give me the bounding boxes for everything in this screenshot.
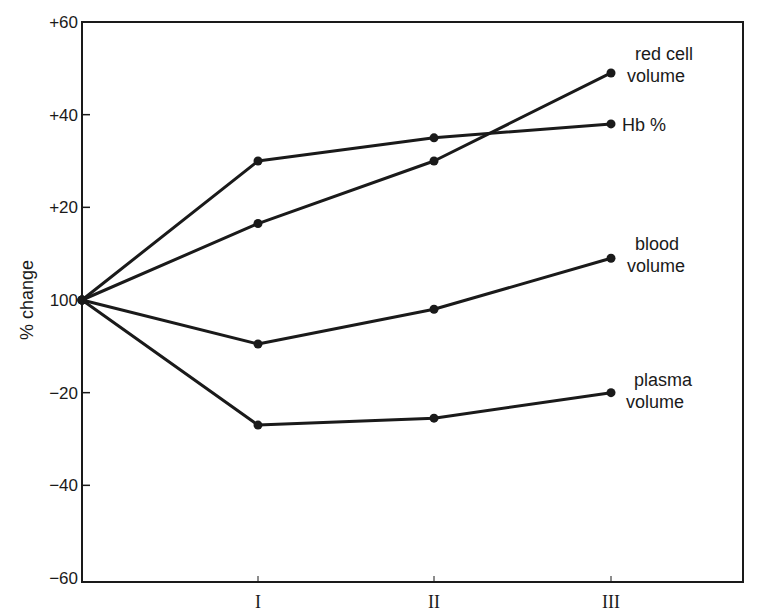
- data-point: [430, 133, 439, 142]
- x-tick-label: II: [428, 592, 440, 612]
- data-point: [607, 254, 616, 263]
- line-chart: +60+40+20100−20−40−60 IIIIII red cellvol…: [0, 0, 762, 615]
- x-tick-label: I: [255, 592, 261, 612]
- y-tick-label: −40: [49, 476, 78, 495]
- y-axis-title: % change: [17, 260, 37, 340]
- data-point: [430, 414, 439, 423]
- series-line-red-cell-volume: [82, 73, 611, 300]
- data-point: [607, 119, 616, 128]
- data-point: [78, 296, 87, 305]
- series-label-red-cell-volume: red cellvolume: [627, 44, 693, 86]
- data-point: [430, 305, 439, 314]
- plot-frame: [82, 22, 743, 582]
- data-point: [254, 421, 263, 430]
- data-point: [430, 157, 439, 166]
- data-point: [607, 68, 616, 77]
- series-label-plasma-volume: plasmavolume: [626, 370, 693, 412]
- data-point: [607, 388, 616, 397]
- y-tick-label: −60: [49, 569, 78, 588]
- y-tick-label: −20: [49, 384, 78, 403]
- series-labels: red cellvolumeHb %bloodvolumeplasmavolum…: [622, 44, 693, 412]
- y-tick-label: +40: [49, 106, 78, 125]
- series-label-blood-volume: bloodvolume: [627, 234, 685, 276]
- data-point: [254, 157, 263, 166]
- data-point: [254, 219, 263, 228]
- series-lines: [78, 68, 616, 429]
- y-tick-label: +60: [49, 13, 78, 32]
- series-label-hb: Hb %: [622, 115, 666, 135]
- series-line-blood-volume: [82, 258, 611, 344]
- data-point: [254, 340, 263, 349]
- plot-border: [82, 22, 743, 582]
- series-line-hb: [82, 124, 611, 300]
- x-tick-label: III: [602, 592, 620, 612]
- y-tick-label: 100: [50, 291, 78, 310]
- y-tick-label: +20: [49, 198, 78, 217]
